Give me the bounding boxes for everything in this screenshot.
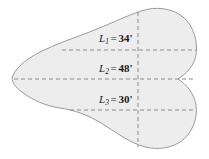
label-l1-value: 34 [118,32,129,44]
measurement-label-l2: L2=48' [99,63,133,76]
label-l2-unit: ' [130,62,133,74]
shape-canvas [0,0,209,159]
label-l3-subscript: 3 [105,98,109,107]
label-l3-value: 30 [118,93,129,105]
label-l1-subscript: 1 [105,37,109,46]
label-l2-value: 48 [118,62,129,74]
geometry-figure: L1=34' L2=48' L3=30' [0,0,209,159]
label-l1-unit: ' [130,32,133,44]
land-region-shape [12,8,196,148]
measurement-label-l3: L3=30' [99,94,133,107]
label-l3-unit: ' [130,93,133,105]
measurement-label-l1: L1=34' [99,33,133,46]
label-l2-subscript: 2 [105,67,109,76]
